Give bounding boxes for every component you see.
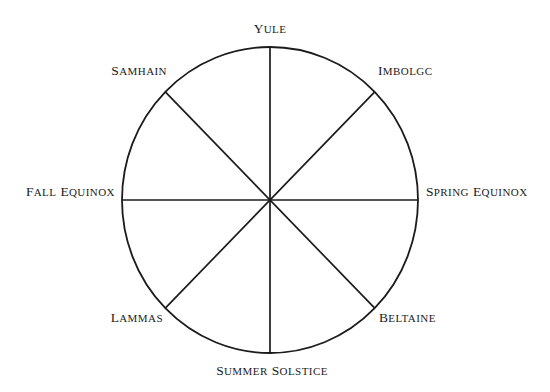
wheel-label-yule-rest: ule [264, 23, 287, 35]
wheel-label-spring-equinox-rest: pring [434, 186, 469, 198]
wheel-label-yule: Yule [254, 22, 287, 36]
wheel-label-imbolgc: Imbolgc [378, 64, 432, 78]
wheel-label-spring-equinox: SpringEquinox [426, 185, 528, 199]
wheel-label-summer-solstice-rest: ummer [224, 365, 268, 377]
wheel-label-samhain: Samhain [111, 64, 167, 78]
wheel-label-yule-initial: Y [254, 21, 264, 36]
wheel-label-beltaine: Beltaine [379, 311, 436, 325]
wheel-label-lammas-initial: L [111, 310, 120, 325]
wheel-label-fall-equinox-rest: all [34, 186, 57, 198]
wheel-label-fall-equinox-rest2: quinox [69, 186, 115, 198]
wheel-label-lammas-rest: ammas [119, 312, 163, 324]
wheel-label-summer-solstice-rest2: olstice [280, 365, 328, 377]
wheel-label-spring-equinox-rest2: quinox [482, 186, 528, 198]
wheel-label-summer-solstice-initial: S [216, 363, 224, 378]
wheel-label-beltaine-initial: B [379, 310, 388, 325]
wheel-of-the-year-figure: Yule Imbolgc SpringEquinox Beltaine Summ… [0, 0, 550, 392]
wheel-label-samhain-initial: S [111, 63, 119, 78]
wheel-label-fall-equinox-initial: F [26, 184, 34, 199]
wheel-label-summer-solstice: SummerSolstice [216, 364, 328, 378]
wheel-label-samhain-rest: amhain [119, 65, 167, 77]
wheel-label-lammas: Lammas [111, 311, 163, 325]
wheel-label-spring-equinox-initial2: E [473, 184, 482, 199]
wheel-label-spring-equinox-initial: S [426, 184, 434, 199]
wheel-label-beltaine-rest: eltaine [388, 312, 436, 324]
wheel-label-fall-equinox: FallEquinox [26, 185, 115, 199]
wheel-label-fall-equinox-initial2: E [60, 184, 69, 199]
wheel-label-imbolgc-rest: mbolgc [383, 65, 433, 77]
